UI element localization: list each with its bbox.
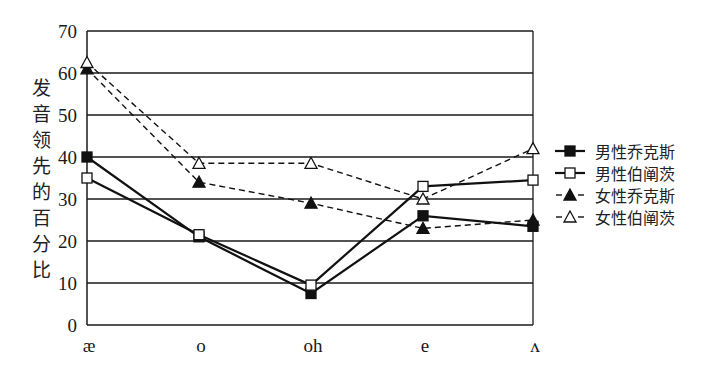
data-series bbox=[81, 57, 539, 299]
x-tick-label: ʌ bbox=[530, 335, 540, 356]
series-2 bbox=[81, 63, 539, 234]
filled-triangle-marker-icon bbox=[527, 214, 539, 225]
series-1 bbox=[82, 173, 538, 290]
filled-triangle-marker-icon bbox=[564, 189, 576, 200]
open-triangle-marker-icon bbox=[527, 143, 539, 154]
y-tick-label: 40 bbox=[58, 147, 77, 168]
open-triangle-marker-icon bbox=[81, 57, 93, 68]
legend-item: 女性伯阐茨 bbox=[553, 206, 675, 228]
legend-swatch-icon bbox=[553, 209, 587, 225]
filled-square-marker-icon bbox=[82, 152, 92, 162]
y-tick-label: 70 bbox=[58, 21, 77, 42]
y-axis-ticks: 010203040506070 bbox=[58, 21, 77, 336]
x-tick-label: o bbox=[196, 335, 206, 356]
open-square-marker-icon bbox=[306, 280, 316, 290]
y-tick-label: 60 bbox=[58, 63, 77, 84]
open-triangle-marker-icon bbox=[305, 157, 317, 168]
open-triangle-marker-icon bbox=[564, 211, 576, 222]
y-axis-label-char: 的 bbox=[30, 179, 52, 205]
y-axis-label: 发音领先的百分比 bbox=[30, 75, 52, 283]
open-square-marker-icon bbox=[565, 168, 575, 178]
filled-square-marker-icon bbox=[418, 211, 428, 221]
legend-label: 女性伯阐茨 bbox=[595, 205, 675, 229]
open-square-marker-icon bbox=[418, 181, 428, 191]
legend: 男性乔克斯男性伯阐茨女性乔克斯女性伯阐茨 bbox=[553, 140, 675, 228]
legend-swatch-icon bbox=[553, 187, 587, 203]
y-tick-label: 20 bbox=[58, 231, 77, 252]
open-square-marker-icon bbox=[82, 173, 92, 183]
y-axis-label-char: 领 bbox=[30, 127, 52, 153]
x-tick-label: æ bbox=[83, 335, 96, 356]
y-axis-label-char: 百 bbox=[30, 205, 52, 231]
y-axis-label-char: 音 bbox=[30, 101, 52, 127]
filled-square-marker-icon bbox=[565, 146, 575, 156]
series-line bbox=[87, 63, 533, 200]
legend-item: 男性伯阐茨 bbox=[553, 162, 675, 184]
legend-label: 女性乔克斯 bbox=[595, 183, 675, 207]
y-axis-label-char: 分 bbox=[30, 231, 52, 257]
legend-swatch-icon bbox=[553, 143, 587, 159]
open-square-marker-icon bbox=[528, 175, 538, 185]
x-tick-label: e bbox=[421, 335, 429, 356]
y-axis-label-char: 先 bbox=[30, 153, 52, 179]
legend-label: 男性乔克斯 bbox=[595, 139, 675, 163]
y-tick-label: 10 bbox=[58, 273, 77, 294]
y-tick-label: 50 bbox=[58, 105, 77, 126]
legend-item: 男性乔克斯 bbox=[553, 140, 675, 162]
open-square-marker-icon bbox=[194, 230, 204, 240]
y-tick-label: 30 bbox=[58, 189, 77, 210]
series-line bbox=[87, 178, 533, 285]
x-tick-label: oh bbox=[304, 335, 324, 356]
y-axis-label-char: 发 bbox=[30, 75, 52, 101]
x-axis-ticks: æooheʌ bbox=[83, 335, 541, 356]
legend-label: 男性伯阐茨 bbox=[595, 161, 675, 185]
y-tick-label: 0 bbox=[68, 315, 78, 336]
y-axis-label-char: 比 bbox=[30, 257, 52, 283]
legend-swatch-icon bbox=[553, 165, 587, 181]
legend-item: 女性乔克斯 bbox=[553, 184, 675, 206]
series-3 bbox=[81, 57, 539, 205]
